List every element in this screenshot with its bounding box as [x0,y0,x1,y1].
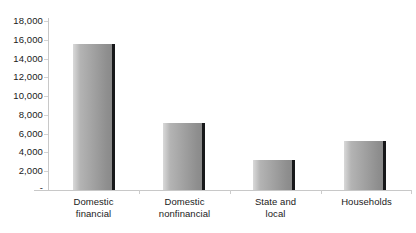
bar-households[interactable] [344,141,383,190]
x-axis-label-line-2: financial [48,208,139,220]
x-axis-label-line-1: Domestic [48,196,139,208]
x-axis-label-domestic-financial: Domestic financial [48,196,139,219]
x-axis-label-line-2: nonfinancial [139,208,230,220]
x-axis-label-households: Households [321,196,412,208]
x-axis-separator-3 [321,190,322,194]
x-axis-label-line-1: Domestic [139,196,230,208]
bar-chart: 18,000 16,000 14,000 12,000 10,000 8,000… [0,0,416,233]
bar-shadow-edge [202,123,205,190]
x-axis-separator-4 [411,190,412,194]
bar-fill [163,123,202,190]
x-axis-label-domestic-nonfinancial: Domestic nonfinancial [139,196,230,219]
bar-fill [73,44,112,191]
x-axis-separator-1 [139,190,140,194]
bar-state-and-local[interactable] [253,160,292,190]
bar-fill [253,160,292,190]
bar-domestic-nonfinancial[interactable] [163,123,202,190]
x-axis-label-line-1: State and [230,196,321,208]
bar-shadow-edge [292,160,295,190]
x-axis-label-state-and-local: State and local [230,196,321,219]
bar-shadow-edge [112,44,115,191]
bar-fill [344,141,383,190]
x-axis-label-line-2: local [230,208,321,220]
bar-domestic-financial[interactable] [73,44,112,191]
x-axis-separator-2 [230,190,231,194]
x-axis-label-line-1: Households [321,196,412,208]
bar-shadow-edge [383,141,386,190]
